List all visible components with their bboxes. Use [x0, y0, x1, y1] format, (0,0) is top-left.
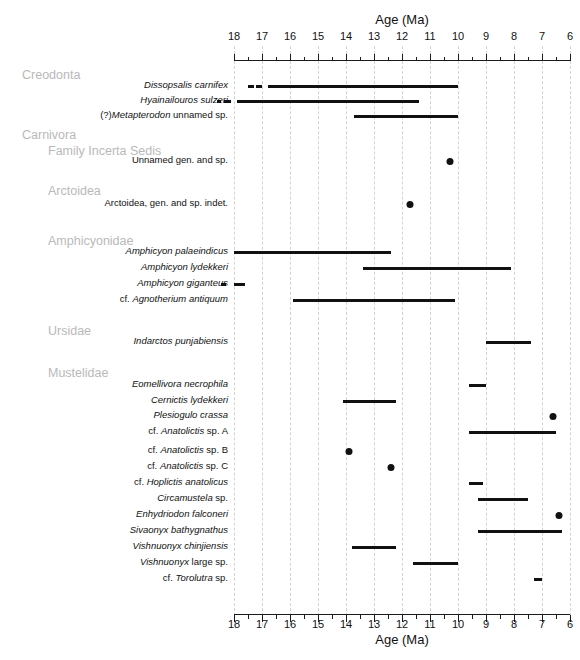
- tick-label-6: 6: [567, 618, 573, 630]
- tick-major-15: [318, 54, 319, 61]
- tick-major-11: [430, 54, 431, 61]
- taxon-label-amphicyon-palaeindicus: Amphicyon palaeindicus: [126, 245, 228, 256]
- occurrence-point-cf-anatolictis-sp-b: [345, 448, 352, 455]
- tick-minor-8.5: [500, 615, 501, 619]
- gridline-16: [290, 46, 291, 626]
- gridline-8: [514, 46, 515, 626]
- tick-minor-11.5: [416, 57, 417, 61]
- range-dash-dissopsalis-carnifex-0: [248, 85, 254, 88]
- tick-label-17: 17: [256, 618, 268, 630]
- range-bar-cf-torolutra-sp: [534, 578, 542, 581]
- tick-minor-13.5: [360, 57, 361, 61]
- gridline-17: [262, 46, 263, 626]
- occurrence-point-enhydriodon-falconeri: [555, 512, 562, 519]
- range-bar-dissopsalis-carnifex: [268, 85, 458, 88]
- tick-minor-17.5: [248, 57, 249, 61]
- range-bar-cf-hoplictis-anatolicus: [469, 482, 483, 485]
- tick-label-8: 8: [511, 618, 517, 630]
- taxon-label-enhydriodon-falconeri: Enhydriodon falconeri: [136, 508, 228, 519]
- tick-label-13: 13: [368, 30, 380, 42]
- tick-major-12: [402, 54, 403, 61]
- axis-top: [234, 60, 570, 61]
- tick-label-16: 16: [284, 618, 296, 630]
- tick-minor-7.5: [528, 615, 529, 619]
- tick-minor-12.5: [388, 57, 389, 61]
- taxon-label-cf-anatolictis-sp-a: cf. Anatolictis sp. A: [148, 425, 228, 436]
- tick-label-15: 15: [312, 618, 324, 630]
- plot-area: [234, 46, 570, 626]
- range-bar-metapterodon-unnamed-sp: [354, 115, 458, 118]
- tick-minor-16.5: [276, 615, 277, 619]
- taxon-label-arctoidea-gen-and-sp-indet: Arctoidea, gen. and sp. indet.: [104, 197, 228, 208]
- tick-major-13: [374, 54, 375, 61]
- range-bar-vishnuonyx-chinjiensis: [352, 546, 397, 549]
- tick-label-18: 18: [228, 30, 240, 42]
- taxon-label-vishnuonyx-large-sp: Vishnuonyx large sp.: [140, 556, 228, 567]
- tick-minor-15.5: [304, 57, 305, 61]
- tick-label-8: 8: [511, 30, 517, 42]
- occurrence-point-cf-anatolictis-sp-c: [387, 464, 394, 471]
- tick-label-7: 7: [539, 30, 545, 42]
- taxon-label-circamustela-sp: Circamustela sp.: [157, 492, 228, 503]
- tick-major-9: [486, 54, 487, 61]
- occurrence-point-unnamed-gen-and-sp: [446, 158, 453, 165]
- tick-minor-9.5: [472, 57, 473, 61]
- range-bar-amphicyon-palaeindicus: [234, 251, 391, 254]
- tick-minor-10.5: [444, 615, 445, 619]
- gridline-12: [402, 46, 403, 626]
- taxon-label-indarctos-punjabiensis: Indarctos punjabiensis: [133, 335, 228, 346]
- axis-title-top: Age (Ma): [234, 12, 570, 27]
- gridline-6: [570, 46, 571, 626]
- tick-label-18: 18: [228, 618, 240, 630]
- tick-major-14: [346, 54, 347, 61]
- taxon-label-plesiogulo-crassa: Plesiogulo crassa: [154, 409, 228, 420]
- taxon-label-cf-anatolictis-sp-b: cf. Anatolictis sp. B: [148, 444, 228, 455]
- tick-major-6: [570, 54, 571, 61]
- tick-label-16: 16: [284, 30, 296, 42]
- tick-minor-17.5: [248, 615, 249, 619]
- range-bar-hyainailouros-sulzeri: [237, 100, 419, 103]
- tick-minor-11.5: [416, 615, 417, 619]
- taxon-label-hyainailouros-sulzeri: Hyainailouros sulzeri: [140, 94, 228, 105]
- taxon-label-sivaonyx-bathygnathus: Sivaonyx bathygnathus: [130, 524, 228, 535]
- taxon-label-cf-hoplictis-anatolicus: cf. Hoplictis anatolicus: [134, 476, 228, 487]
- range-bar-eomellivora-necrophila: [469, 384, 486, 387]
- group-heading-carnivora: Carnivora: [22, 128, 76, 142]
- occurrence-point-arctoidea-gen-and-sp-indet: [407, 201, 414, 208]
- tick-minor-14.5: [332, 57, 333, 61]
- tick-minor-14.5: [332, 615, 333, 619]
- group-heading-ursidae: Ursidae: [48, 324, 91, 338]
- tick-minor-6.5: [556, 57, 557, 61]
- tick-major-18: [234, 54, 235, 61]
- gridline-15: [318, 46, 319, 626]
- taxon-label-unnamed-gen-and-sp: Unnamed gen. and sp.: [132, 154, 228, 165]
- tick-minor-6.5: [556, 615, 557, 619]
- tick-label-12: 12: [396, 30, 408, 42]
- tick-minor-16.5: [276, 57, 277, 61]
- tick-minor-9.5: [472, 615, 473, 619]
- range-bar-amphicyon-lydekkeri: [363, 267, 511, 270]
- range-dash-dissopsalis-carnifex-1: [256, 85, 262, 88]
- gridline-14: [346, 46, 347, 626]
- gridline-9: [486, 46, 487, 626]
- group-heading-arctoidea: Arctoidea: [48, 184, 101, 198]
- tick-label-15: 15: [312, 30, 324, 42]
- gridline-13: [374, 46, 375, 626]
- range-bar-indarctos-punjabiensis: [486, 341, 531, 344]
- tick-major-7: [542, 54, 543, 61]
- tick-label-6: 6: [567, 30, 573, 42]
- tick-minor-12.5: [388, 615, 389, 619]
- tick-label-9: 9: [483, 30, 489, 42]
- figure-root: Age (Ma) 1817161514131211109876 18171615…: [0, 0, 580, 660]
- taxon-label-amphicyon-lydekkeri: Amphicyon lydekkeri: [141, 261, 228, 272]
- tick-major-8: [514, 54, 515, 61]
- tick-label-10: 10: [452, 30, 464, 42]
- axis-bottom: [234, 614, 570, 615]
- taxon-label-cernictis-lydekkeri: Cernictis lydekkeri: [151, 394, 228, 405]
- tick-label-9: 9: [483, 618, 489, 630]
- occurrence-point-plesiogulo-crassa: [550, 413, 557, 420]
- tick-minor-7.5: [528, 57, 529, 61]
- gridline-10: [458, 46, 459, 626]
- taxon-label-cf-anatolictis-sp-c: cf. Anatolictis sp. C: [147, 460, 228, 471]
- tick-minor-15.5: [304, 615, 305, 619]
